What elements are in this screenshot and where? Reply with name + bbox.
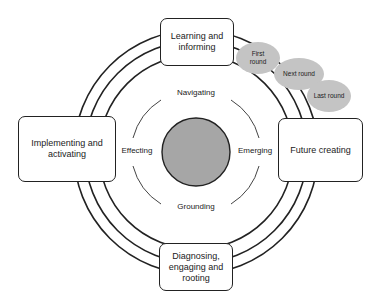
core-circle [162, 118, 230, 186]
box-label-left: Implementing and activating [26, 138, 108, 160]
label-grounding: Grounding [176, 202, 216, 211]
box-label-bottom: Diagnosing, engaging and rooting [165, 251, 227, 284]
box-diagnosing-engaging-rooting: Diagnosing, engaging and rooting [159, 243, 233, 291]
round-label-next: Next round [283, 70, 315, 78]
label-effecting: Effecting [120, 146, 154, 155]
box-learning-informing: Learning and informing [160, 18, 234, 66]
box-label-right: Future creating [290, 145, 351, 156]
round-label-first: First round [244, 50, 272, 66]
box-future-creating: Future creating [278, 118, 363, 182]
label-navigating: Navigating [176, 88, 216, 97]
label-emerging: Emerging [238, 146, 272, 155]
box-label-top: Learning and informing [168, 31, 226, 53]
round-bubble-last: Last round [307, 80, 351, 112]
round-bubble-first: First round [236, 42, 280, 74]
box-implementing-activating: Implementing and activating [18, 116, 116, 182]
round-label-last: Last round [314, 92, 345, 100]
